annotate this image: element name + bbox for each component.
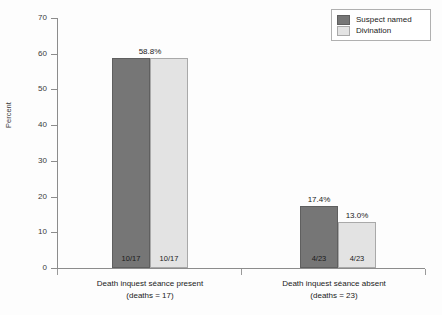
y-tick-mark [51,54,57,55]
legend-item-divination: Divination [337,25,425,36]
y-tick-mark [51,232,57,233]
y-tick-mark [51,125,57,126]
category-label-group1-sub: (deaths = 17) [59,290,241,302]
x-axis-separator-tick [425,269,426,275]
bar-fraction-label-group2-divination: 4/23 [338,255,376,263]
y-tick-mark [51,89,57,90]
category-label-group2-main: Death inquest séance absent [282,279,386,288]
legend-item-suspect-named: Suspect named [337,14,425,25]
bar-fraction-label-group1-divination: 10/17 [150,255,188,263]
bar-value-label-group2-suspect-named: 17.4% [299,195,339,204]
y-tick-label: 50 [7,85,47,93]
y-tick-label: 20 [7,193,47,201]
legend-swatch-icon [337,26,350,36]
legend-label-divination: Divination [356,26,391,36]
bar-group1-divination [150,58,188,268]
legend-swatch-icon [337,15,350,25]
bar-value-label-group2-divination: 13.0% [337,211,377,220]
bar-fraction-label-group1-suspect-named: 10/17 [112,255,150,263]
y-tick-mark [51,18,57,19]
category-label-group2: Death inquest séance absent (deaths = 23… [243,278,425,302]
x-axis-separator-tick [57,269,58,275]
bar-fraction-label-group2-suspect-named: 4/23 [300,255,338,263]
x-axis-separator-tick [241,269,242,275]
y-tick-label: 10 [7,228,47,236]
bar-group1-suspect-named [112,58,150,268]
bar-chart: Percent 70 60 50 40 30 20 10 0 58.8% 10/… [0,0,442,315]
legend-label-suspect-named: Suspect named [356,15,412,25]
bar-value-label-group1: 58.8% [110,47,190,56]
category-label-group2-sub: (deaths = 23) [243,290,425,302]
y-tick-label: 30 [7,157,47,165]
y-tick-label: 60 [7,50,47,58]
y-tick-label: 70 [7,14,47,22]
chart-legend: Suspect named Divination [331,9,431,41]
y-axis-line [57,18,58,269]
category-label-group1-main: Death inquest séance present [97,279,203,288]
y-tick-mark [51,197,57,198]
category-label-group1: Death inquest séance present (deaths = 1… [59,278,241,302]
y-tick-label: 0 [7,264,47,272]
y-tick-label: 40 [7,121,47,129]
y-tick-mark [51,161,57,162]
